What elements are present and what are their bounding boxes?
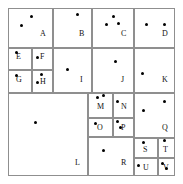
data-point	[66, 68, 69, 71]
region-r[interactable]	[88, 137, 134, 176]
data-point	[163, 100, 166, 103]
region-label-n: N	[121, 103, 127, 111]
region-label-t: T	[163, 146, 168, 154]
region-i[interactable]	[53, 48, 92, 93]
data-point	[40, 73, 43, 76]
region-label-s: S	[143, 146, 147, 154]
data-point	[15, 74, 18, 77]
data-point	[30, 15, 33, 18]
region-k[interactable]	[134, 48, 175, 93]
data-point	[163, 139, 166, 142]
data-point	[36, 81, 39, 84]
data-point	[36, 56, 39, 59]
data-point	[105, 23, 108, 26]
partition-diagram: ABCDEFGHIJKLMNOPQRSTUV	[0, 0, 183, 184]
data-point	[116, 100, 119, 103]
region-label-l: L	[75, 159, 80, 167]
region-label-p: P	[121, 124, 125, 132]
region-label-m: M	[97, 103, 104, 111]
data-point	[161, 162, 164, 165]
data-point	[165, 167, 168, 170]
data-point	[114, 60, 117, 63]
data-point	[145, 23, 148, 26]
region-label-c: C	[121, 30, 126, 38]
data-point	[20, 24, 23, 27]
region-label-h: H	[40, 78, 46, 86]
region-label-b: B	[79, 30, 84, 38]
region-label-d: D	[162, 30, 168, 38]
region-j[interactable]	[92, 48, 134, 93]
data-point	[112, 15, 115, 18]
data-point	[76, 13, 79, 16]
data-point	[119, 126, 122, 129]
region-label-k: K	[162, 76, 168, 84]
data-point	[163, 23, 166, 26]
data-point	[102, 149, 105, 152]
region-label-q: Q	[162, 124, 168, 132]
region-label-o: O	[97, 124, 103, 132]
data-point	[96, 96, 99, 99]
data-point	[15, 51, 18, 54]
region-label-a: A	[40, 30, 46, 38]
data-point	[142, 141, 145, 144]
data-point	[117, 22, 120, 25]
data-point	[94, 122, 97, 125]
region-label-u: U	[143, 164, 149, 172]
region-label-r: R	[121, 159, 126, 167]
region-d[interactable]	[134, 8, 175, 48]
data-point	[34, 121, 37, 124]
region-label-g: G	[16, 76, 22, 84]
data-point	[137, 164, 140, 167]
data-point	[142, 109, 145, 112]
data-point	[102, 94, 105, 97]
region-label-j: J	[121, 76, 124, 84]
region-label-e: E	[16, 53, 21, 61]
region-label-i: I	[80, 76, 83, 84]
region-label-f: F	[40, 53, 44, 61]
region-b[interactable]	[53, 8, 92, 48]
region-q[interactable]	[134, 93, 175, 138]
data-point	[116, 120, 119, 123]
data-point	[141, 72, 144, 75]
